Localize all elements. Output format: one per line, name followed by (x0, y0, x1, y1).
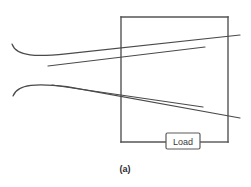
canvas-background (0, 0, 251, 187)
figure-container: Load (a) (0, 0, 251, 187)
schematic-diagram: Load (a) (0, 0, 251, 187)
figure-caption: (a) (120, 164, 131, 174)
load-label: Load (173, 137, 193, 147)
load-element: Load (166, 133, 200, 149)
